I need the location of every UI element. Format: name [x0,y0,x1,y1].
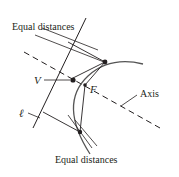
lower-point [78,130,82,134]
label-axis: Axis [140,88,159,99]
upper-to-focus [85,62,105,85]
label-bottom-equal-distances: Equal distances [55,154,118,165]
focus-point [83,83,87,87]
lower-to-focus [80,85,85,132]
label-directrix: ℓ [19,107,24,119]
parabola-diagram: Equal distances Equal distances V F Axis… [0,0,179,177]
upper-point [103,60,108,65]
vertex-point [70,77,75,82]
directrix-leader [28,113,40,118]
label-top-equal-distances: Equal distances [12,21,75,32]
label-focus: F [89,83,97,95]
label-vertex: V [34,74,42,86]
parabola-curve [73,62,143,154]
upper-to-directrix [68,42,105,62]
axis-leader [121,95,137,106]
